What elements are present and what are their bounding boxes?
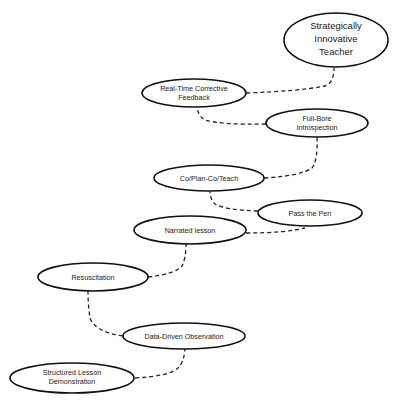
staircase-diagram: Strategically Innovative Teacher Real-Ti… [0, 0, 395, 406]
node-label: Teacher [319, 46, 353, 57]
node-real-time-corrective-feedback: Real-Time Corrective Feedback [142, 79, 246, 107]
connector-res-nl [148, 244, 186, 277]
node-label: Data-Driven Observation [144, 332, 223, 341]
node-label: Full-Bore [302, 114, 331, 123]
node-label: Strategically [310, 20, 362, 31]
node-co-plan-co-teach: Co/Plan-Co/Teach [154, 165, 264, 191]
connector-rtcf-sit [246, 68, 334, 93]
node-pass-the-pen: Pass the Pen [258, 200, 362, 226]
node-full-bore-introspection: Full-Bore Introspection [266, 109, 368, 137]
node-narrated-lesson: Narrated lesson [134, 216, 246, 244]
node-label: Structured Lesson [43, 368, 101, 377]
node-label: Introspection [296, 123, 337, 132]
node-label: Co/Plan-Co/Teach [180, 174, 238, 183]
node-label: Demonstration [49, 377, 96, 386]
node-label: Narrated lesson [165, 226, 216, 235]
node-label: Pass the Pen [289, 209, 332, 218]
node-label: Real-Time Corrective [160, 84, 228, 93]
node-data-driven-observation: Data-Driven Observation [123, 323, 245, 349]
node-resuscitation: Resuscitation [38, 263, 148, 291]
connector-ddo-res [88, 291, 123, 336]
connector-fbi-rtcf [197, 107, 266, 124]
node-label: Feedback [178, 93, 210, 102]
node-structured-lesson-demonstration: Structured Lesson Demonstration [10, 363, 134, 393]
node-label: Resuscitation [71, 273, 114, 282]
connector-ptp-cpct [210, 191, 258, 211]
connector-nl-ptp [246, 228, 305, 233]
connector-sld-ddo [135, 349, 185, 378]
node-strategically-innovative-teacher: Strategically Innovative Teacher [284, 13, 388, 67]
node-label: Innovative [314, 33, 357, 44]
connector-cpct-fbi [264, 137, 317, 178]
